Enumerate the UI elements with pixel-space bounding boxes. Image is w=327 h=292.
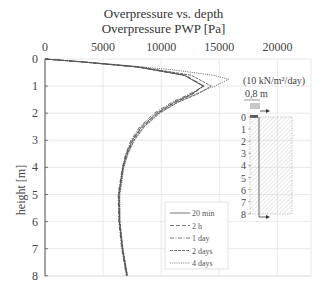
legend-label: 2 days [192,247,213,256]
width-label: 0,8 m [245,88,268,99]
legend-label: 4 days [192,259,213,268]
chart-canvas: 05000100001500020000 012345678 height [m… [0,0,327,292]
inset-schematic: (10 kN/m²/day) 0,8 m 012345678 [241,75,305,220]
legend: 20 min2 h1 day2 days4 days [165,202,228,269]
y-tick-label: 0 [32,52,38,66]
load-label: (10 kN/m²/day) [243,75,305,87]
y-tick-label: 4 [32,160,38,174]
x-tick-label: 10000 [146,40,176,54]
load-arrows-icon [251,103,259,109]
y-tick-label: 3 [32,133,38,147]
inset-depth-tick: 0 [241,112,246,123]
inset-depth-tick: 2 [241,136,246,147]
y-tick-label: 1 [32,79,38,93]
inset-depth-tick: 3 [241,148,246,159]
x-tick-label: 20000 [262,40,292,54]
legend-label: 20 min [192,209,214,218]
soil-column [250,117,292,214]
inset-depth-tick: 4 [241,160,246,171]
x-axis-ticks: 05000100001500020000 [42,40,292,54]
inset-depth-tick: 5 [241,173,246,184]
y-tick-label: 2 [32,106,38,120]
legend-label: 1 day [192,234,210,243]
y-tick-label: 6 [32,215,38,229]
y-tick-label: 8 [32,269,38,283]
y-axis-label: height [m] [14,165,28,215]
y-tick-label: 7 [32,242,38,256]
inset-depth-tick: 8 [241,209,246,220]
inset-depth-tick: 1 [241,124,246,135]
legend-label: 2 h [192,222,202,231]
x-tick-label: 15000 [204,40,234,54]
x-tick-label: 5000 [91,40,115,54]
y-tick-label: 5 [32,188,38,202]
inset-depth-tick: 6 [241,185,246,196]
inset-depth-tick: 7 [241,197,246,208]
x-tick-label: 0 [42,40,48,54]
y-axis-ticks: 012345678 [32,52,48,283]
